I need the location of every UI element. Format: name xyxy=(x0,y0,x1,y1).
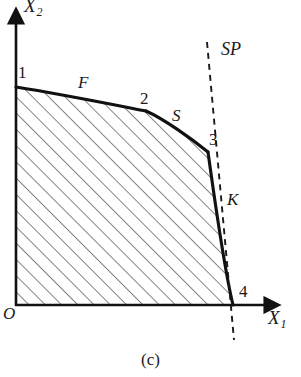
vertex-label-4: 4 xyxy=(239,283,248,300)
figure-container: X2 X1 O 1 2 3 4 F S K SP (c) xyxy=(0,0,301,377)
line-label-SP: SP xyxy=(221,40,241,58)
vertex-label-1: 1 xyxy=(18,64,27,81)
segment-label-K: K xyxy=(227,191,238,208)
vertex-label-3: 3 xyxy=(209,131,218,148)
hatched-region xyxy=(16,87,233,305)
segment-label-S: S xyxy=(172,107,181,124)
origin-label: O xyxy=(3,305,15,322)
x-axis-label: X1 xyxy=(268,308,286,327)
figure-plot xyxy=(0,0,301,377)
segment-label-F: F xyxy=(78,74,88,91)
y-axis-label: X2 xyxy=(24,0,42,15)
figure-caption: (c) xyxy=(0,350,301,370)
vertex-label-2: 2 xyxy=(140,90,149,107)
